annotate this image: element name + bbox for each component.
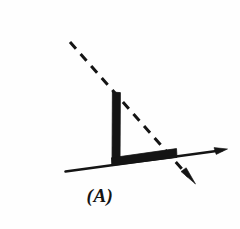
vertical-component-bar	[112, 92, 120, 164]
figure-panel-a: (A)	[0, 0, 240, 229]
panel-label: (A)	[0, 183, 200, 209]
vertical-component-bar-shape	[112, 92, 120, 164]
